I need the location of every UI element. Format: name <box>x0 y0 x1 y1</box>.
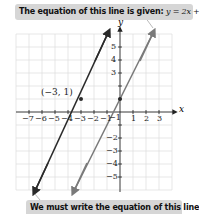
top-callout-equation: y = 2x + 1. <box>166 7 199 16</box>
point-neg3-1 <box>79 97 83 101</box>
y-tick-label: −5 <box>106 172 118 181</box>
x-tick-label: 3 <box>157 114 162 123</box>
y-tick-label: 4 <box>111 55 116 64</box>
y-tick-label: −1 <box>109 113 121 122</box>
y-tick-label: 5 <box>111 42 116 51</box>
y-tick-label: −2 <box>106 133 118 142</box>
top-callout-text: The equation of this line is given: <box>19 7 166 16</box>
x-tick-label: −4 <box>61 114 73 123</box>
coordinate-graph <box>0 0 199 214</box>
point-0-1 <box>118 97 122 101</box>
top-callout: The equation of this line is given: y = … <box>15 4 193 20</box>
bottom-callout-text: We must write the equation of this line. <box>30 203 199 212</box>
y-tick-label: −3 <box>106 146 118 155</box>
x-tick-label: −3 <box>74 114 86 123</box>
x-tick-label: −7 <box>22 114 34 123</box>
x-tick-label: 1 <box>131 114 136 123</box>
x-tick-label: −6 <box>35 114 47 123</box>
x-axis-label: x <box>179 104 184 114</box>
y-tick-label: −4 <box>106 159 118 168</box>
bottom-callout: We must write the equation of this line. <box>26 200 182 214</box>
point-label: (−3, 1) <box>41 87 73 97</box>
x-tick-labels: −7 −6 −5 −4 −3 −2 −1 1 2 3 <box>0 114 199 126</box>
x-tick-label: 2 <box>144 114 149 123</box>
x-tick-label: −5 <box>48 114 60 123</box>
y-tick-label: 3 <box>111 68 116 77</box>
x-tick-label: −2 <box>87 114 99 123</box>
